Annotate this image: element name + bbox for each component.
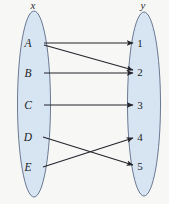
domain-node-C: C (24, 99, 32, 111)
domain-set-ellipse (18, 11, 51, 197)
domain-node-D: D (23, 131, 33, 143)
edges-group (43, 43, 133, 167)
codomain-node-5: 5 (137, 160, 143, 172)
mapping-diagram: x y ABCDE 12345 (0, 0, 169, 204)
codomain-set-ellipse (128, 12, 161, 196)
codomain-node-1: 1 (137, 37, 143, 49)
domain-set-label: x (30, 0, 36, 11)
codomain-set-group: y (128, 0, 161, 196)
mapping-arrow (43, 137, 133, 165)
codomain-node-3: 3 (137, 99, 143, 111)
domain-node-B: B (24, 67, 31, 79)
codomain-set-label: y (140, 0, 146, 11)
domain-set-group: x (18, 0, 51, 197)
mapping-arrow (43, 138, 133, 167)
mapping-arrow (44, 45, 133, 70)
mapping-diagram-canvas: x y ABCDE 12345 (0, 0, 169, 204)
domain-node-A: A (23, 37, 32, 49)
codomain-node-4: 4 (137, 131, 143, 143)
codomain-node-2: 2 (137, 66, 143, 78)
domain-node-E: E (23, 161, 31, 173)
